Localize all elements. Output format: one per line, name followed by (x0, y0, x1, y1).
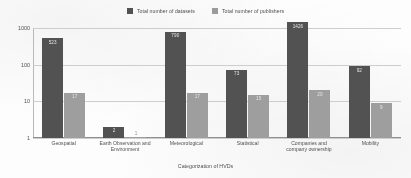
bar-group: 929 (340, 28, 401, 138)
bar-datasets: 92 (349, 66, 370, 138)
bar-value-label: 20 (309, 92, 330, 97)
bar-value-label: 15 (248, 96, 269, 101)
bar-groups: 5231721790177315142620929 (33, 28, 401, 138)
bar-value-label: 17 (187, 94, 208, 99)
bar-datasets: 790 (165, 32, 186, 138)
bar-publishers: 15 (248, 95, 269, 138)
legend-swatch-icon (212, 8, 218, 14)
x-axis-category-label: Statistical (217, 140, 278, 152)
bar-group: 21 (94, 28, 155, 138)
chart-legend: Total number of datasets Total number of… (0, 8, 411, 14)
bar-value-label: 92 (349, 68, 370, 73)
bar-datasets: 1426 (287, 22, 308, 138)
bar-value-label: 2 (103, 128, 124, 133)
bar-value-label: 73 (226, 71, 247, 76)
bar-datasets: 523 (42, 38, 63, 138)
x-axis-category-label: Companies and company ownership (278, 140, 339, 152)
y-axis-tick-label: 1 (27, 135, 30, 141)
bar-group: 52317 (33, 28, 94, 138)
legend-label-datasets: Total number of datasets (137, 8, 195, 14)
x-axis-category-labels: GeospatialEarth Observation and Environm… (33, 140, 401, 152)
legend-label-publishers: Total number of publishers (222, 8, 284, 14)
x-axis-category-label: Meteorological (156, 140, 217, 152)
bar-group: 142620 (278, 28, 339, 138)
legend-item-datasets: Total number of datasets (127, 8, 195, 14)
plot-area: 1101001000 5231721790177315142620929 (33, 28, 401, 138)
y-axis-tick-label: 1000 (18, 25, 30, 31)
bar-datasets: 2 (103, 127, 124, 138)
x-axis-category-label: Geospatial (33, 140, 94, 152)
bar-group: 7315 (217, 28, 278, 138)
bar-value-label: 17 (64, 94, 85, 99)
x-axis-title: Categorization of HVDs (0, 163, 411, 169)
bar-value-label: 523 (42, 40, 63, 45)
bar-chart: Total number of datasets Total number of… (0, 0, 411, 178)
bar-value-label: 9 (371, 105, 392, 110)
bar-publishers: 20 (309, 90, 330, 138)
x-axis-category-label: Earth Observation and Environment (94, 140, 155, 152)
legend-item-publishers: Total number of publishers (212, 8, 284, 14)
gridline: 1 (33, 138, 401, 139)
bar-publishers: 17 (187, 93, 208, 138)
bar-value-label: 1426 (287, 24, 308, 29)
bar-publishers: 17 (64, 93, 85, 138)
y-axis-tick-label: 10 (24, 98, 30, 104)
x-axis-category-label: Mobility (340, 140, 401, 152)
bar-datasets: 73 (226, 70, 247, 138)
bar-group: 79017 (156, 28, 217, 138)
legend-swatch-icon (127, 8, 133, 14)
bar-value-label: 790 (165, 33, 186, 38)
bar-value-label: 1 (125, 131, 146, 136)
y-axis-tick-label: 100 (21, 62, 30, 68)
bar-publishers: 9 (371, 103, 392, 138)
bar-publishers: 1 (125, 137, 146, 138)
